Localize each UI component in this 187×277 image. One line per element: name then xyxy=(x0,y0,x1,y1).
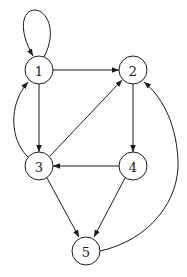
node-3-label: 3 xyxy=(35,160,43,175)
node-4-label: 4 xyxy=(129,160,137,175)
edge-3-2[interactable] xyxy=(50,80,122,156)
edge-3-5[interactable] xyxy=(47,178,79,237)
node-5-label: 5 xyxy=(82,245,90,260)
graph-canvas: 1 2 3 4 5 xyxy=(0,0,187,277)
node-5[interactable]: 5 xyxy=(72,237,100,265)
edge-3-1[interactable] xyxy=(14,82,28,157)
nodes: 1 2 3 4 5 xyxy=(25,56,147,265)
node-2[interactable]: 2 xyxy=(119,56,147,84)
node-3[interactable]: 3 xyxy=(25,152,53,180)
edge-1-1[interactable] xyxy=(23,10,50,57)
node-2-label: 2 xyxy=(129,64,137,79)
edge-4-5[interactable] xyxy=(94,178,125,237)
node-1[interactable]: 1 xyxy=(25,56,53,84)
edges xyxy=(14,10,178,251)
node-4[interactable]: 4 xyxy=(119,152,147,180)
node-1-label: 1 xyxy=(35,64,43,79)
